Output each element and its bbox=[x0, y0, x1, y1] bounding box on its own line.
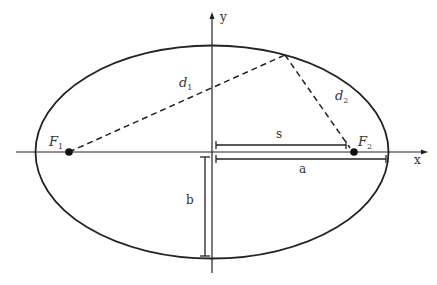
x-axis-label: x bbox=[414, 154, 421, 166]
focus-f2-label: F2 bbox=[358, 135, 372, 151]
d2-label: d2 bbox=[335, 89, 348, 105]
focus-f1-point bbox=[65, 148, 73, 156]
s-label: s bbox=[276, 128, 282, 140]
focus-f2-point bbox=[350, 148, 358, 156]
focus-f1-label: F1 bbox=[49, 135, 63, 151]
b-measure-bar bbox=[200, 157, 210, 256]
s-measure-bar bbox=[216, 141, 346, 149]
d1-label: d1 bbox=[179, 76, 192, 92]
a-label: a bbox=[299, 163, 306, 175]
y-axis bbox=[210, 12, 215, 273]
y-axis-label: y bbox=[220, 11, 227, 23]
b-label: b bbox=[186, 194, 194, 206]
ellipse-diagram: y x F1 F2 d1 d2 s a b bbox=[0, 0, 437, 285]
